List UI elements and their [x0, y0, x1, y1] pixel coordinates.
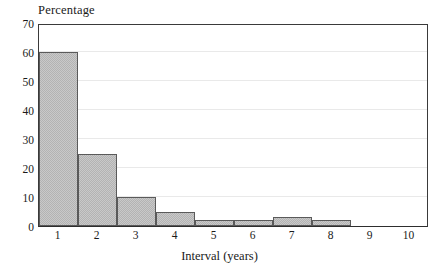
x-axis-tick-labels: 12345678910 [38, 229, 428, 247]
x-axis-tick-label: 10 [403, 229, 415, 241]
x-axis-tick-label: 8 [328, 229, 334, 241]
bar [78, 154, 117, 227]
x-axis-tick-label: 3 [133, 229, 139, 241]
x-axis-title: Interval (years) [0, 249, 439, 264]
y-axis-tick-label: 70 [4, 18, 34, 30]
y-axis-tick-label: 50 [4, 76, 34, 88]
y-axis-tick-label: 0 [4, 221, 34, 233]
plot-area [38, 24, 428, 227]
bar [234, 220, 273, 226]
x-axis-tick-label: 1 [55, 229, 61, 241]
y-axis-tick-label: 30 [4, 134, 34, 146]
x-axis-tick-label: 5 [211, 229, 217, 241]
x-axis-tick-label: 7 [289, 229, 295, 241]
y-axis-tick-label: 20 [4, 163, 34, 175]
bar [156, 212, 195, 227]
bar [195, 220, 234, 226]
bar [273, 217, 312, 226]
y-axis-tick-labels: 010203040506070 [0, 24, 34, 227]
bar [39, 52, 78, 226]
bar [117, 197, 156, 226]
y-axis-tick-label: 40 [4, 105, 34, 117]
x-axis-tick-label: 9 [367, 229, 373, 241]
y-axis-tick-label: 60 [4, 47, 34, 59]
x-axis-tick-label: 6 [250, 229, 256, 241]
bar-series [39, 25, 427, 226]
y-axis-title: Percentage [38, 3, 95, 18]
y-axis-tick-label: 10 [4, 192, 34, 204]
x-axis-tick-label: 4 [172, 229, 178, 241]
bar [312, 220, 351, 226]
x-axis-tick-label: 2 [94, 229, 100, 241]
histogram-figure: Percentage 010203040506070 12345678910 I… [0, 0, 439, 274]
